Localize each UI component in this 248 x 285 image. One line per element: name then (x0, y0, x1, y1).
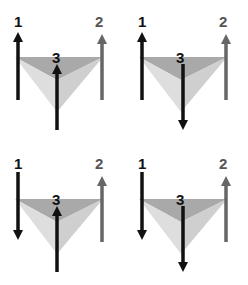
spin-label-1: 1 (138, 156, 146, 171)
spin-label-2: 2 (219, 14, 227, 29)
spin-label-2: 2 (95, 156, 103, 171)
spin-2-up-arrow-icon (221, 176, 231, 242)
panel-bottom-left: 123 (0, 142, 124, 284)
panel-top-left: 123 (0, 0, 124, 142)
spin-label-1: 1 (14, 156, 22, 171)
spin-label-2: 2 (219, 156, 227, 171)
panel-top-right: 123 (124, 0, 248, 142)
spin-1-up-arrow-icon (13, 32, 23, 100)
spin-2-up-arrow-icon (97, 176, 107, 242)
spin-label-1: 1 (14, 14, 22, 29)
panel-bottom-right: 123 (124, 142, 248, 284)
spin-2-up-arrow-icon (221, 34, 231, 100)
spin-label-3: 3 (52, 50, 60, 65)
spin-1-up-arrow-icon (137, 32, 147, 100)
spin-label-3: 3 (52, 192, 60, 207)
spin-2-up-arrow-icon (97, 34, 107, 100)
spin-label-2: 2 (95, 14, 103, 29)
spin-label-3: 3 (176, 192, 184, 207)
spin-label-3: 3 (176, 50, 184, 65)
spin-label-1: 1 (138, 14, 146, 29)
